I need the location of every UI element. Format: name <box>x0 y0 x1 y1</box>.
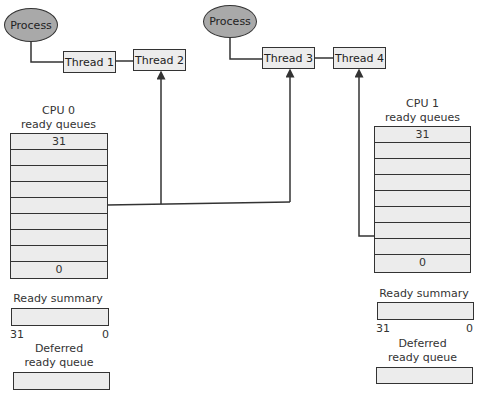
cpu0-ready-queues: 31 0 <box>10 133 108 279</box>
queue-row <box>375 191 470 207</box>
queue-row <box>11 246 107 262</box>
cpu1-deferred-label: Deferred ready queue <box>374 337 471 365</box>
thread-3-label: Thread 3 <box>264 52 313 65</box>
queue-row <box>375 159 470 175</box>
thread-4-box: Thread 4 <box>333 47 386 69</box>
thread-1-box: Thread 1 <box>63 51 116 73</box>
cpu1-deferred-ready-queue <box>376 367 473 384</box>
thread-4-label: Thread 4 <box>335 52 384 65</box>
queue-row: 31 <box>375 127 470 143</box>
thread-3-box: Thread 3 <box>262 47 315 69</box>
queue-row <box>11 214 107 230</box>
cpu0-deferred-line2: ready queue <box>10 356 108 370</box>
queue-row: 0 <box>11 262 107 278</box>
thread-1-label: Thread 1 <box>65 56 114 69</box>
queue-row: 31 <box>11 134 107 150</box>
thread-2-box: Thread 2 <box>133 49 186 71</box>
process-2-label: Process <box>209 15 251 28</box>
cpu0-summary-left: 31 <box>10 328 24 341</box>
cpu1-deferred-line2: ready queue <box>374 351 471 365</box>
cpu0-title-line2: ready queues <box>10 118 107 132</box>
process-2-node: Process <box>203 5 257 38</box>
queue-row <box>11 182 107 198</box>
cpu0-deferred-ready-queue <box>13 372 110 390</box>
cpu0-ready-summary-label: Ready summary <box>4 292 112 306</box>
queue-row <box>375 175 470 191</box>
cpu0-deferred-line1: Deferred <box>10 342 108 356</box>
queue-row <box>11 150 107 166</box>
queue-row <box>375 143 470 159</box>
cpu1-summary-left: 31 <box>376 322 390 335</box>
cpu0-summary-right: 0 <box>102 328 109 341</box>
cpu1-title: CPU 1 ready queues <box>374 97 471 125</box>
queue-row: 0 <box>375 255 470 271</box>
queue-row <box>11 198 107 214</box>
queue-row <box>375 223 470 239</box>
cpu0-ready-summary-bar <box>11 308 109 326</box>
cpu1-ready-summary-bar <box>377 302 474 320</box>
cpu0-title-line1: CPU 0 <box>10 104 107 118</box>
cpu1-ready-summary-label: Ready summary <box>370 287 478 301</box>
process-1-label: Process <box>10 19 52 32</box>
thread-2-label: Thread 2 <box>135 54 184 67</box>
cpu1-title-line2: ready queues <box>374 111 471 125</box>
queue-row <box>11 230 107 246</box>
cpu0-deferred-label: Deferred ready queue <box>10 342 108 370</box>
queue-row <box>11 166 107 182</box>
cpu1-deferred-line1: Deferred <box>374 337 471 351</box>
cpu1-title-line1: CPU 1 <box>374 97 471 111</box>
queue-row <box>375 239 470 255</box>
cpu1-ready-queues: 31 0 <box>374 126 471 273</box>
cpu1-summary-right: 0 <box>466 322 473 335</box>
process-1-node: Process <box>4 8 58 42</box>
queue-row <box>375 207 470 223</box>
cpu0-title: CPU 0 ready queues <box>10 104 107 132</box>
